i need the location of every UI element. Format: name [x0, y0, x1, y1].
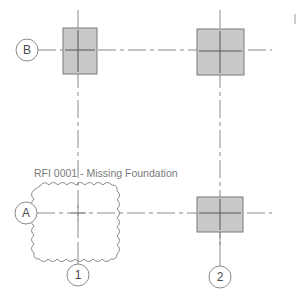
column-a2[interactable] [197, 197, 243, 232]
grid-bubble-1-label: 1 [75, 268, 82, 282]
grid-bubble-b[interactable]: B [16, 39, 38, 61]
revision-cloud[interactable] [32, 183, 120, 262]
grid-bubble-2[interactable]: 2 [209, 266, 231, 288]
column-b1[interactable] [63, 28, 97, 74]
grid-bubble-a-label: A [22, 206, 30, 220]
missing-foundation-marker [70, 205, 86, 221]
grid-bubble-1[interactable]: 1 [67, 264, 89, 286]
rfi-label[interactable]: RFI 0001 - Missing Foundation [34, 167, 178, 179]
grid-bubble-a[interactable]: A [15, 202, 37, 224]
column-b2[interactable] [197, 29, 244, 75]
grid-bubble-b-label: B [23, 43, 31, 57]
structural-grid-plan: RFI 0001 - Missing Foundation B A 1 2 [0, 0, 298, 301]
grid-bubble-2-label: 2 [217, 270, 224, 284]
